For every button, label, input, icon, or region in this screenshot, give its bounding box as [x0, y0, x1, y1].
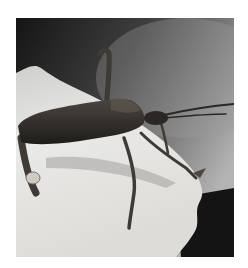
insect-photo: [16, 18, 234, 257]
photo-canvas: [16, 18, 234, 257]
